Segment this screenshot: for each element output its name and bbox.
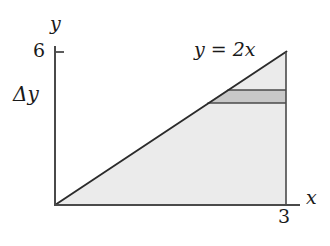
- y-axis-label: y: [50, 14, 61, 33]
- x-axis-label: x: [306, 188, 317, 207]
- line-equation-label: y = 2x: [194, 40, 256, 59]
- delta-y-label: Δy: [13, 84, 39, 104]
- x-tick-label-3: 3: [278, 207, 290, 226]
- math-diagram-figure: y 6 Δy y = 2x x 3: [0, 0, 330, 246]
- y-tick-label-6: 6: [33, 41, 45, 60]
